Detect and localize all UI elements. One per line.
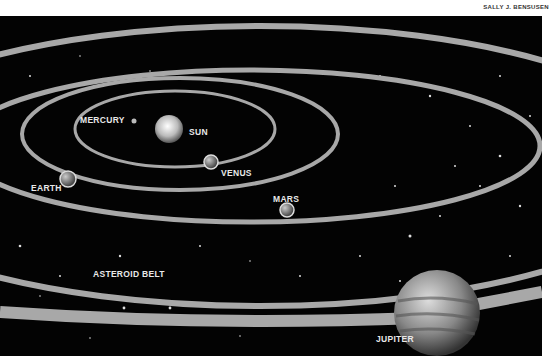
orbit-rings (0, 26, 542, 321)
earth-icon (60, 171, 76, 187)
mercury-icon (132, 119, 137, 124)
label-asteroid-belt: ASTEROID BELT (93, 269, 165, 279)
sun-icon (155, 115, 183, 143)
label-mercury: MERCURY (80, 115, 125, 125)
label-earth: EARTH (31, 183, 62, 193)
mars-icon (280, 203, 294, 217)
label-venus: VENUS (221, 168, 252, 178)
orbits-and-planets (0, 16, 542, 356)
venus-icon (204, 155, 218, 169)
label-jupiter: JUPITER (376, 334, 414, 344)
solar-system-illustration: MERCURY SUN VENUS EARTH MARS ASTEROID BE… (0, 16, 542, 356)
photo-credit: SALLY J. BENSUSEN (483, 4, 549, 10)
label-mars: MARS (273, 194, 299, 204)
label-sun: SUN (189, 127, 208, 137)
